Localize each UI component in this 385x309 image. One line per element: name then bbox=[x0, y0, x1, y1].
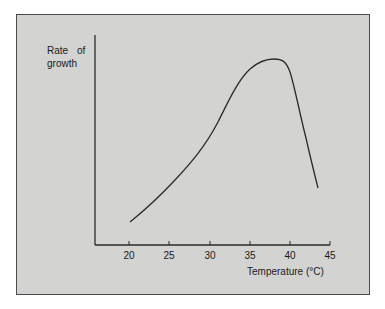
x-tick-label: 45 bbox=[324, 250, 335, 261]
x-tick-label: 30 bbox=[204, 250, 215, 261]
y-axis-label-line1: Rate of bbox=[47, 44, 85, 57]
x-axis-label: Temperature (°C) bbox=[247, 266, 324, 277]
growth-curve bbox=[130, 59, 318, 222]
x-tick-label: 25 bbox=[163, 250, 174, 261]
x-tick-label: 20 bbox=[123, 250, 134, 261]
y-axis-label-line2: growth bbox=[47, 57, 85, 70]
y-axis-label: Rate of growth bbox=[47, 44, 85, 70]
x-tick-label: 40 bbox=[284, 250, 295, 261]
x-tick-label: 35 bbox=[244, 250, 255, 261]
